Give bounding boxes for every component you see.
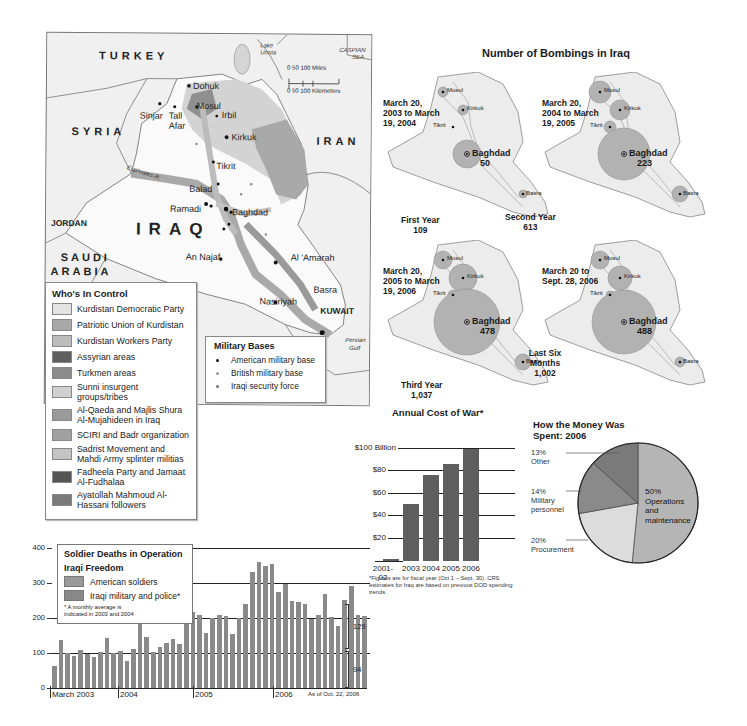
deaths-y-tick: 0 [25, 683, 45, 692]
deaths-bar [329, 617, 334, 688]
bombing-period-label: Third Year [401, 380, 442, 390]
city-kirkuk: Kirkuk [624, 105, 641, 111]
deaths-legend-item: Iraqi military and police* [64, 590, 186, 601]
iraq-outline-map [540, 72, 710, 232]
bracket-label-129: 129 [353, 622, 366, 631]
deaths-y-tick: 200 [25, 613, 45, 622]
city-tikrit: Tikrit [433, 290, 446, 296]
city-mosul: Mosul [604, 87, 620, 93]
deaths-bar [323, 594, 328, 688]
cost-footnote: *Figures are for fiscal year (Oct 1 – Se… [369, 575, 519, 596]
bases-legend-label: American military base [231, 355, 315, 365]
deaths-bar [237, 618, 242, 688]
cost-tick-label: $100 Billion [355, 443, 396, 452]
deaths-bar [78, 650, 83, 688]
label-lake-urmia-2: Urmia [260, 49, 276, 55]
deaths-x-label: 2005 [195, 690, 213, 699]
base-dot-icon [216, 385, 219, 388]
cost-x-label: 2006 [460, 564, 482, 573]
bases-legend-label: British military base [231, 368, 303, 378]
deaths-bar [118, 651, 123, 688]
control-legend-label: Ayatollah Mahmoud Al-Hassani followers [77, 490, 190, 510]
bracket-94 [345, 651, 349, 688]
deaths-bar [98, 652, 103, 688]
swatch-icon [52, 448, 72, 460]
deaths-bar [257, 562, 262, 688]
deaths-bar [177, 644, 182, 688]
deaths-bar [303, 604, 308, 688]
swatch-icon [52, 429, 72, 441]
cost-baseline [375, 561, 403, 562]
swatch-icon [64, 590, 84, 601]
label-saudi: SAUDI [61, 251, 110, 263]
bombing-panel: March 20, 2004 to March 19, 2005MosulKir… [540, 72, 710, 237]
deaths-bar [283, 584, 288, 688]
deaths-bar [59, 640, 64, 688]
deaths-bar [65, 653, 70, 688]
deaths-bar [250, 572, 255, 688]
deaths-bar [125, 661, 130, 688]
control-legend: Who's In Control Kurdistan Democratic Pa… [45, 282, 197, 520]
deaths-bar [164, 643, 169, 688]
deaths-bar [111, 653, 116, 688]
label-gulf-1: Persian [345, 337, 365, 343]
baghdad-count: Baghdad50 [472, 148, 511, 168]
label-syria: SYRIA [72, 125, 126, 137]
control-legend-title: Who's In Control [52, 288, 190, 299]
city-kirkuk: Kirkuk [467, 273, 484, 279]
bombing-total: First Year109 [401, 215, 440, 235]
deaths-bar [144, 637, 149, 688]
bases-legend-item: Iraqi security force [214, 381, 317, 391]
control-legend-item: Turkmen areas [52, 366, 190, 379]
deaths-legend-item: American soldiers [64, 576, 186, 587]
deaths-bar [217, 615, 222, 688]
city-mosul: Mosul [447, 255, 463, 261]
control-legend-item: Fadheela Party and Jamaat Al-Fudhalaa [52, 467, 190, 487]
baghdad-label: Baghdad [472, 148, 511, 158]
control-legend-label: SCIRI and Badr organization [77, 430, 189, 440]
swatch-icon [52, 335, 72, 347]
city-mosul: Mosul [197, 101, 221, 111]
deaths-bar [197, 615, 202, 688]
cost-x-label: 2005 [440, 564, 462, 573]
control-legend-item: Kurdistan Workers Party [52, 334, 190, 347]
cost-bar [403, 504, 419, 561]
cost-x-label-line1: 2001- [372, 564, 394, 573]
cost-bar [463, 449, 479, 561]
bombing-total-value: 1,002 [520, 368, 570, 378]
pie-label: 14%Militarypersonnel [531, 487, 564, 514]
cost-tick-label: $60 [373, 488, 386, 497]
deaths-x-tick [118, 686, 119, 698]
city-an-najaf: An Najaf [186, 252, 221, 262]
label-caspian-1: CASPIAN [339, 47, 365, 53]
bombing-period-label: Last Six Months [520, 348, 570, 368]
label-kuwait: KUWAIT [320, 306, 354, 316]
deaths-bar [316, 615, 321, 688]
deaths-bar [263, 566, 268, 688]
deaths-chart: 4003002001000March 2003200420052006As of… [25, 540, 375, 720]
city-tikrit: Tikrit [590, 290, 603, 296]
city-tall: Tall [169, 111, 183, 121]
deaths-bar [158, 647, 163, 688]
city-tikrit: Tikrit [216, 161, 235, 171]
pie-label-line: personnel [531, 505, 564, 514]
swatch-icon [64, 576, 84, 587]
bombing-period-label: First Year [401, 215, 440, 225]
deaths-y-tick: 100 [25, 648, 45, 657]
scale-km: 0 50 100 Kilometers [287, 88, 340, 94]
control-legend-item: Sadrist Movement and Mahdi Army splinter… [52, 444, 190, 464]
bombing-total: Last Six Months1,002 [520, 348, 570, 378]
control-legend-item: Al-Qaeda and Majlis Shura Al-Mujahideen … [52, 405, 190, 425]
deaths-bar [85, 654, 90, 688]
deaths-legend: Soldier Deaths in OperationIraqi Freedom… [57, 544, 193, 624]
deaths-bar [296, 602, 301, 688]
cost-title: Annual Cost of War* [392, 407, 483, 418]
bombing-total-value: 613 [505, 222, 556, 232]
deaths-bar [184, 619, 189, 688]
pie-label-line: 13% [531, 448, 550, 457]
city-basra: Basra [313, 285, 337, 295]
control-legend-label: Assyrian areas [77, 352, 135, 362]
deaths-bar [290, 601, 295, 688]
label-iran: IRAN [317, 135, 360, 147]
control-legend-label: Patriotic Union of Kurdistan [77, 320, 184, 330]
